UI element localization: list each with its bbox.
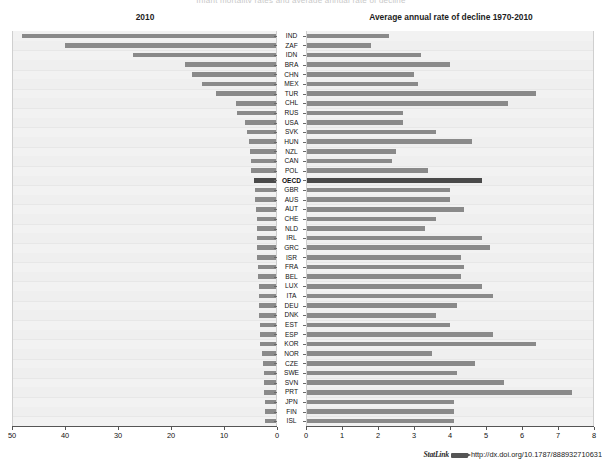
bar-right-idn xyxy=(306,53,421,58)
axis-tick-left xyxy=(65,427,66,430)
row-tick-left xyxy=(274,123,277,124)
bar-right-che xyxy=(306,217,436,222)
bar-right-tur xyxy=(306,91,536,96)
bar-right-isr xyxy=(306,255,461,260)
bar-right-cze xyxy=(306,361,475,366)
panel-title-right: Average annual rate of decline 1970-2010 xyxy=(300,12,602,22)
category-label-ita: ITA xyxy=(277,291,306,301)
bar-left-rus xyxy=(237,111,277,116)
category-label-mex: MEX xyxy=(277,79,306,89)
row-tick-left xyxy=(274,132,277,133)
row-tick-left xyxy=(274,238,277,239)
category-label-chn: CHN xyxy=(277,70,306,80)
bar-right-grc xyxy=(306,245,490,250)
axis-line-left xyxy=(12,426,277,427)
bar-right-lux xyxy=(306,284,482,289)
category-label-svk: SVK xyxy=(277,127,306,137)
row-tick-left xyxy=(274,45,277,46)
axis-tick-label-right-6: 6 xyxy=(520,431,524,440)
row-tick-left xyxy=(274,113,277,114)
row-tick-right xyxy=(303,238,306,239)
axis-tick-right xyxy=(342,427,343,430)
row-tick-left xyxy=(274,84,277,85)
axis-tick-left xyxy=(277,427,278,430)
statlink-url[interactable]: http://dx.doi.org/10.1787/888932710631 xyxy=(471,450,602,459)
category-label-grc: GRC xyxy=(277,243,306,253)
row-tick-right xyxy=(303,84,306,85)
statlink-label: StatLink xyxy=(423,450,448,459)
row-tick-left xyxy=(274,402,277,403)
category-label-prt: PRT xyxy=(277,387,306,397)
row-tick-left xyxy=(274,74,277,75)
category-label-gbr: GBR xyxy=(277,185,306,195)
bar-right-hun xyxy=(306,139,472,144)
category-label-can: CAN xyxy=(277,156,306,166)
row-tick-right xyxy=(303,171,306,172)
bar-right-fin xyxy=(306,409,454,414)
plot-left-edge xyxy=(12,31,13,426)
row-tick-right xyxy=(303,363,306,364)
category-label-deu: DEU xyxy=(277,301,306,311)
row-tick-left xyxy=(274,306,277,307)
bar-right-kor xyxy=(306,342,536,347)
bar-right-isl xyxy=(306,419,454,424)
row-tick-left xyxy=(274,180,277,181)
row-tick-left xyxy=(274,383,277,384)
category-label-lux: LUX xyxy=(277,281,306,291)
axis-tick-label-left-30: 30 xyxy=(114,431,122,440)
bar-left-tur xyxy=(216,91,277,96)
bar-right-gbr xyxy=(306,188,450,193)
bar-left-mex xyxy=(202,82,277,87)
row-tick-right xyxy=(303,392,306,393)
bar-right-pol xyxy=(306,168,428,173)
category-label-aus: AUS xyxy=(277,195,306,205)
bar-right-mex xyxy=(306,82,418,87)
bar-left-chl xyxy=(236,101,277,106)
category-label-hun: HUN xyxy=(277,137,306,147)
row-tick-left xyxy=(274,412,277,413)
bar-right-prt xyxy=(306,390,572,395)
row-tick-right xyxy=(303,306,306,307)
bar-right-chl xyxy=(306,101,508,106)
row-tick-right xyxy=(303,142,306,143)
row-tick-right xyxy=(303,373,306,374)
category-label-bel: BEL xyxy=(277,272,306,282)
bar-left-ind xyxy=(22,34,277,39)
plot-right-redge xyxy=(593,31,594,426)
bar-right-ita xyxy=(306,294,493,299)
category-label-zaf: ZAF xyxy=(277,41,306,51)
category-label-kor: KOR xyxy=(277,339,306,349)
row-tick-left xyxy=(274,219,277,220)
row-tick-right xyxy=(303,65,306,66)
bar-left-idn xyxy=(133,53,277,58)
panel-title-left: 2010 xyxy=(0,12,290,22)
row-tick-right xyxy=(303,344,306,345)
row-tick-right xyxy=(303,45,306,46)
category-label-chl: CHL xyxy=(277,98,306,108)
bar-right-irl xyxy=(306,236,482,241)
bar-right-swe xyxy=(306,371,457,376)
axis-tick-label-left-50: 50 xyxy=(8,431,16,440)
category-label-bra: BRA xyxy=(277,60,306,70)
grid-row xyxy=(12,416,277,426)
plot-area-right xyxy=(306,31,594,426)
axis-tick-label-right-4: 4 xyxy=(448,431,452,440)
bar-left-usa xyxy=(245,120,277,125)
row-tick-right xyxy=(303,334,306,335)
category-label-jpn: JPN xyxy=(277,397,306,407)
bar-left-hun xyxy=(249,139,277,144)
axis-tick-label-right-8: 8 xyxy=(592,431,596,440)
row-tick-right xyxy=(303,151,306,152)
category-label-ind: IND xyxy=(277,31,306,41)
row-tick-right xyxy=(303,113,306,114)
row-tick-left xyxy=(274,315,277,316)
category-label-tur: TUR xyxy=(277,89,306,99)
row-tick-right xyxy=(303,229,306,230)
bar-right-aus xyxy=(306,197,450,202)
category-label-est: EST xyxy=(277,320,306,330)
row-tick-left xyxy=(274,36,277,37)
row-tick-left xyxy=(274,65,277,66)
row-tick-right xyxy=(303,354,306,355)
row-tick-left xyxy=(274,190,277,191)
row-tick-right xyxy=(303,55,306,56)
